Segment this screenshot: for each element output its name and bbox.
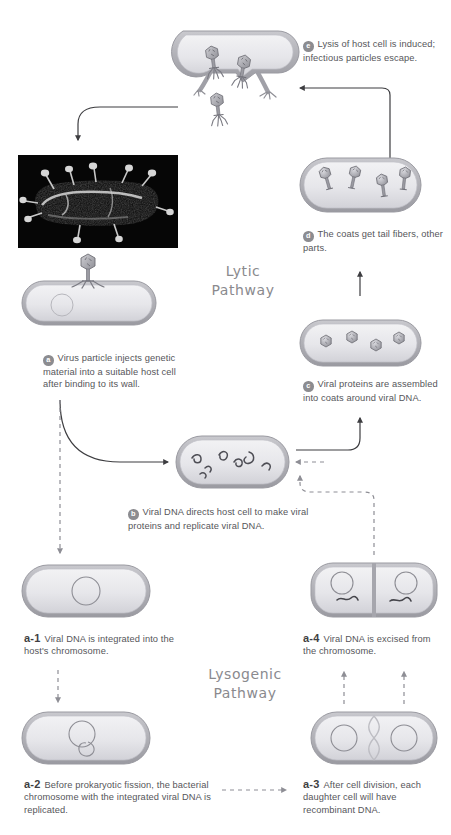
cell-tail-assembly [300,158,421,212]
caption-step-c-text: Viral proteins are assembled into coats … [303,379,438,403]
diagram-artwork [0,0,451,835]
stepnum-a1: a-1 [24,632,41,644]
caption-step-a2: a-2Before prokaryotic fission, the bacte… [24,778,229,816]
badge-step-e: e [303,41,314,52]
cell-daughter-pair [311,712,437,764]
badge-step-d: d [303,231,314,242]
lysogenic-pathway-title: Lysogenic Pathway [170,665,320,703]
cell-replicated-chromosome [22,712,150,764]
caption-step-d-text: The coats get tail fibers, other parts. [303,229,443,253]
cell-integrated-dna [22,565,150,617]
badge-step-b: b [128,509,139,520]
stepnum-a4: a-4 [303,632,320,644]
caption-step-e: eLysis of host cell is induced; infectio… [303,38,443,64]
badge-step-c: c [303,381,314,392]
caption-step-a1-text: Viral DNA is integrated into the host's … [24,634,174,656]
caption-step-a2-text: Before prokaryotic fission, the bacteria… [24,780,211,815]
stepnum-a3: a-3 [303,778,320,790]
lysogenic-pathway-title-line2: Pathway [170,684,320,703]
lytic-pathway-title: Lytic Pathway [178,262,308,300]
arrow-a-to-b [60,400,168,462]
caption-step-a4: a-4Viral DNA is excised from the chromos… [303,632,443,658]
caption-step-d: dThe coats get tail fibers, other parts. [303,228,445,254]
cell-replication [176,436,289,488]
cell-excised-dna-pair [311,563,437,617]
cell-host-infection [22,254,156,325]
caption-step-e-text: Lysis of host cell is induced; infectiou… [303,39,435,63]
caption-step-a-text: Virus particle injects genetic material … [43,353,176,389]
figure-canvas: Lytic Pathway Lysogenic Pathway eLysis o… [0,0,451,835]
arrow-b-to-c [296,418,360,450]
lysogenic-pathway-title-line1: Lysogenic [170,665,320,684]
lytic-pathway-title-line1: Lytic [178,262,308,281]
lytic-pathway-title-line2: Pathway [178,281,308,300]
caption-step-a3: a-3After cell division, each daughter ce… [303,778,439,816]
cell-lysing [172,31,299,127]
stepnum-a2: a-2 [24,778,41,790]
badge-step-a: a [43,355,54,366]
cell-coat-assembly [300,320,421,366]
caption-step-b-text: Viral DNA directs host cell to make vira… [128,507,308,531]
caption-step-a3-text: After cell division, each daughter cell … [303,780,421,815]
caption-step-a1: a-1Viral DNA is integrated into the host… [24,632,196,658]
caption-step-a: aVirus particle injects genetic material… [43,352,191,390]
caption-step-b: bViral DNA directs host cell to make vir… [128,506,343,532]
arrow-lysis-to-micrograph [78,107,178,140]
electron-micrograph [18,155,178,248]
caption-step-c: cViral proteins are assembled into coats… [303,378,443,404]
caption-step-a4-text: Viral DNA is excised from the chromosome… [303,634,431,656]
